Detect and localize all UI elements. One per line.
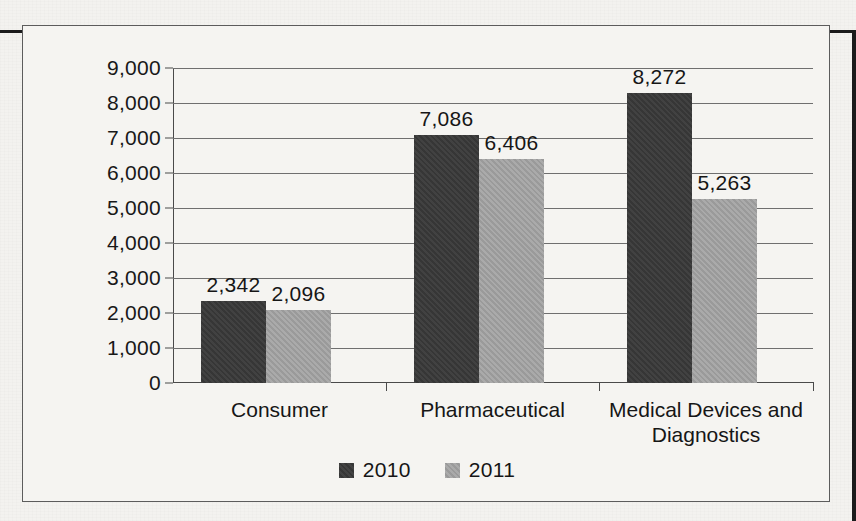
- ytick-mark-1000: [165, 348, 173, 349]
- category-tick-pharmaceutical: [599, 382, 600, 391]
- bar-label-medical-devices-2011: 5,263: [697, 171, 751, 195]
- category-label-consumer-line1: Consumer: [165, 397, 395, 422]
- bar-consumer-2010[interactable]: 2,342: [201, 301, 266, 383]
- ytick-label-5000: 5,000: [107, 196, 161, 220]
- ytick-label-3000: 3,000: [107, 266, 161, 290]
- ytick-label-2000: 2,000: [107, 301, 161, 325]
- bar-label-pharmaceutical-2011: 6,406: [484, 131, 538, 155]
- bar-label-consumer-2010: 2,342: [206, 273, 260, 297]
- category-label-consumer: Consumer: [165, 397, 395, 422]
- category-tick-consumer: [386, 382, 387, 391]
- ytick-label-4000: 4,000: [107, 231, 161, 255]
- ytick-label-8000: 8,000: [107, 91, 161, 115]
- legend-label-2011: 2011: [469, 458, 515, 482]
- ytick-mark-5000: [165, 208, 173, 209]
- legend-item-2010[interactable]: 2010: [339, 458, 411, 482]
- bar-pharmaceutical-2010[interactable]: 7,086: [414, 135, 479, 383]
- ytick-label-9000: 9,000: [107, 56, 161, 80]
- ytick-label-1000: 1,000: [107, 336, 161, 360]
- ytick-label-6000: 6,000: [107, 161, 161, 185]
- plot-area: 9,000 8,000 7,000 6,000 5,000 4,000 3,00…: [173, 68, 813, 383]
- bar-medical-devices-2010[interactable]: 8,272: [627, 93, 692, 383]
- bar-pharmaceutical-2011[interactable]: 6,406: [479, 159, 544, 383]
- ytick-mark-4000: [165, 243, 173, 244]
- category-label-medical-devices-line1: Medical Devices and: [591, 397, 821, 422]
- category-label-medical-devices-line2: Diagnostics: [591, 422, 821, 447]
- bar-group-medical-devices: 8,272 5,263 Medical Devices and Diagnost…: [599, 68, 813, 383]
- page-edge-right: [852, 30, 856, 521]
- bar-label-pharmaceutical-2010: 7,086: [419, 107, 473, 131]
- chart-frame: 9,000 8,000 7,000 6,000 5,000 4,000 3,00…: [22, 25, 830, 502]
- ytick-mark-9000: [165, 68, 173, 69]
- legend-item-2011[interactable]: 2011: [445, 458, 515, 482]
- legend-label-2010: 2010: [363, 458, 411, 482]
- legend-swatch-2011-icon: [445, 463, 460, 478]
- category-tick-medical-devices: [813, 382, 814, 391]
- bar-group-consumer: 2,342 2,096 Consumer: [173, 68, 386, 383]
- bar-consumer-2011[interactable]: 2,096: [266, 310, 331, 383]
- category-label-pharmaceutical: Pharmaceutical: [378, 397, 608, 422]
- ytick-mark-8000: [165, 103, 173, 104]
- category-label-medical-devices: Medical Devices and Diagnostics: [591, 397, 821, 447]
- ytick-mark-7000: [165, 138, 173, 139]
- bar-label-consumer-2011: 2,096: [271, 282, 325, 306]
- ytick-mark-3000: [165, 278, 173, 279]
- bar-group-pharmaceutical: 7,086 6,406 Pharmaceutical: [386, 68, 599, 383]
- ytick-mark-0: [165, 383, 173, 384]
- ytick-label-7000: 7,000: [107, 126, 161, 150]
- ytick-mark-2000: [165, 313, 173, 314]
- legend-swatch-2010-icon: [339, 463, 354, 478]
- ytick-mark-6000: [165, 173, 173, 174]
- bar-label-medical-devices-2010: 8,272: [632, 65, 686, 89]
- chart-legend: 2010 2011: [23, 458, 831, 482]
- bar-medical-devices-2011[interactable]: 5,263: [692, 199, 757, 383]
- ytick-label-0: 0: [149, 371, 161, 395]
- category-label-pharmaceutical-line1: Pharmaceutical: [378, 397, 608, 422]
